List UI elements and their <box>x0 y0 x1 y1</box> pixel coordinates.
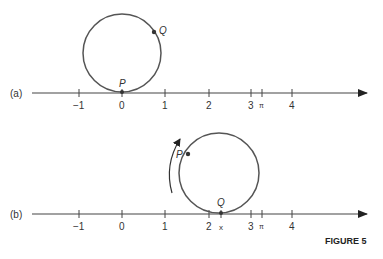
rotation-arrow-icon <box>169 139 180 193</box>
tick-label: 2 <box>206 221 212 232</box>
tick-label: 3 <box>248 100 254 111</box>
figure-canvas: (a) −1 0 1 2 3 π 4 P Q (b) <box>0 0 383 259</box>
tick-label: 4 <box>289 221 295 232</box>
panel-b-label: (b) <box>10 209 22 220</box>
tick-label: π <box>259 223 264 230</box>
tick-label: 4 <box>289 100 295 111</box>
tick-label: −1 <box>73 221 85 232</box>
tick-label: 1 <box>162 221 168 232</box>
point-q-label: Q <box>159 25 167 36</box>
panel-a-label: (a) <box>10 88 22 99</box>
tick-label: 3 <box>248 221 254 232</box>
point-p-label: P <box>176 149 183 160</box>
tick-label: 0 <box>119 221 125 232</box>
tick-label: 1 <box>162 100 168 111</box>
tick-label: π <box>259 102 264 109</box>
point-p <box>186 152 190 156</box>
figure-caption: FIGURE 5 <box>325 236 367 246</box>
tick-label: 2 <box>206 100 212 111</box>
tick-label: x <box>219 223 223 232</box>
tick-label: −1 <box>73 100 85 111</box>
panel-b: (b) −1 0 1 2 x 3 π 4 P Q <box>10 133 367 232</box>
point-q-label: Q <box>217 197 225 208</box>
point-q <box>152 30 156 34</box>
panel-a: (a) −1 0 1 2 3 π 4 P Q <box>10 14 367 111</box>
point-q <box>219 211 223 215</box>
point-p-label: P <box>119 78 126 89</box>
tick-label: 0 <box>119 100 125 111</box>
point-p <box>120 90 124 94</box>
